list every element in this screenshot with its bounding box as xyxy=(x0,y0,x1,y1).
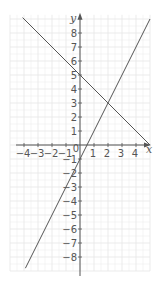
series-line-1 xyxy=(23,18,150,145)
y-tick-label: 8 xyxy=(71,28,77,39)
y-tick-label: −4 xyxy=(62,196,77,207)
x-tick-label: −3 xyxy=(30,148,45,159)
y-tick-label: 1 xyxy=(71,126,77,137)
y-tick-label: 7 xyxy=(71,42,77,53)
y-tick-label: −7 xyxy=(62,238,77,249)
x-axis-title: x xyxy=(146,143,153,156)
y-axis-title: y xyxy=(69,12,77,25)
x-tick-label: −4 xyxy=(16,148,31,159)
y-tick-label: 3 xyxy=(71,98,77,109)
x-tick-label: −2 xyxy=(44,148,59,159)
y-tick-label: −1 xyxy=(62,154,77,165)
axes xyxy=(16,13,151,276)
x-tick-label: 1 xyxy=(90,148,96,159)
y-tick-label: 5 xyxy=(71,70,77,81)
y-tick-label: −5 xyxy=(62,210,77,221)
x-tick-label: 3 xyxy=(118,148,124,159)
y-tick-label: −8 xyxy=(62,252,77,263)
x-tick-label: 4 xyxy=(132,148,138,159)
plotted-lines xyxy=(23,18,150,269)
y-axis-arrow-icon xyxy=(78,13,83,20)
y-tick-label: −3 xyxy=(62,182,77,193)
y-tick-label: 2 xyxy=(71,112,77,123)
origin-label: 0 xyxy=(73,143,79,154)
y-tick-label: −6 xyxy=(62,224,77,235)
y-tick-label: −2 xyxy=(62,168,77,179)
y-tick-label: 4 xyxy=(71,84,77,95)
x-tick-label: 2 xyxy=(104,148,110,159)
series-line-2 xyxy=(25,19,150,268)
tick-labels: −4−3−2−11234−8−7−6−5−4−3−2−1123456780xy xyxy=(16,12,153,263)
y-tick-label: 6 xyxy=(71,56,77,67)
coordinate-plot: −4−3−2−11234−8−7−6−5−4−3−2−1123456780xy xyxy=(0,0,155,287)
